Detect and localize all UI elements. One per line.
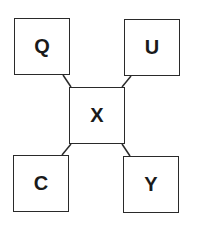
node-u-label: U xyxy=(145,36,159,59)
node-x: X xyxy=(69,87,125,144)
node-y-label: Y xyxy=(144,173,157,196)
node-y: Y xyxy=(123,156,179,213)
node-q: Q xyxy=(14,18,70,75)
node-c-label: C xyxy=(34,172,48,195)
node-x-label: X xyxy=(90,104,103,127)
node-q-label: Q xyxy=(34,35,50,58)
edge-x-y xyxy=(122,144,130,156)
node-u: U xyxy=(124,19,180,76)
node-c: C xyxy=(13,155,69,212)
edge-q-x xyxy=(63,75,71,87)
edge-u-x xyxy=(122,76,131,87)
edge-x-c xyxy=(62,144,71,155)
